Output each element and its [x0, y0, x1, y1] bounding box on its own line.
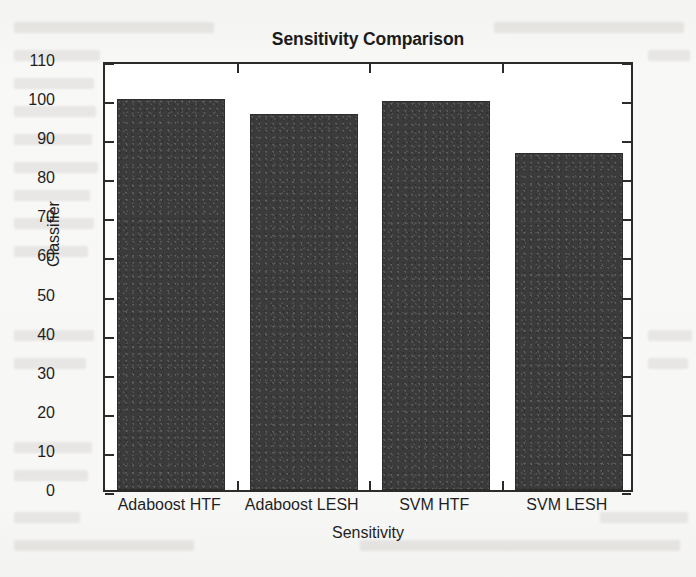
y-tick-label: 100: [0, 92, 55, 108]
x-tick-label: SVM HTF: [368, 496, 501, 514]
y-tick-label: 90: [0, 131, 55, 147]
y-axis-tick: [105, 180, 114, 182]
y-axis-tick: [105, 63, 114, 65]
y-tick-label: 60: [0, 248, 55, 264]
y-axis-tick: [105, 298, 114, 300]
y-axis-tick: [622, 102, 631, 104]
y-axis-tick: [105, 219, 114, 221]
x-axis-tick: [369, 64, 371, 73]
y-axis-tick: [105, 141, 114, 143]
y-axis-tick: [105, 415, 114, 417]
bar: [250, 114, 358, 490]
y-axis-tick: [622, 493, 631, 495]
x-axis-tick: [502, 64, 504, 73]
x-axis-tick: [237, 64, 239, 73]
y-axis-tick: [105, 258, 114, 260]
y-tick-label: 70: [0, 209, 55, 225]
y-axis-tick: [622, 298, 631, 300]
y-tick-label: 20: [0, 405, 55, 421]
y-axis-tick: [622, 141, 631, 143]
y-tick-label: 50: [0, 288, 55, 304]
x-axis-tick: [502, 481, 504, 490]
x-tick-label: Adaboost HTF: [103, 496, 236, 514]
plot-area: [103, 62, 633, 492]
bar: [117, 99, 225, 490]
y-tick-label: 0: [0, 483, 55, 499]
y-axis-tick: [622, 415, 631, 417]
y-axis-tick: [622, 180, 631, 182]
bar: [382, 101, 490, 490]
y-axis-tick: [105, 337, 114, 339]
y-axis-tick: [105, 493, 114, 495]
x-axis-tick: [369, 481, 371, 490]
y-axis-tick: [622, 219, 631, 221]
x-axis-label: Sensitivity: [103, 524, 633, 542]
y-axis-tick: [622, 454, 631, 456]
y-tick-label: 80: [0, 170, 55, 186]
y-axis-tick: [622, 376, 631, 378]
y-tick-label: 30: [0, 366, 55, 382]
y-tick-label: 10: [0, 444, 55, 460]
y-axis-tick: [105, 376, 114, 378]
y-tick-label: 40: [0, 327, 55, 343]
bar: [515, 153, 623, 490]
x-axis-tick: [237, 481, 239, 490]
sensitivity-comparison-bar-chart: Sensitivity Comparison Classifier 010203…: [0, 0, 696, 577]
y-axis-tick: [622, 63, 631, 65]
y-axis-tick: [105, 102, 114, 104]
y-axis-label: Classifier: [45, 174, 63, 294]
y-axis-tick: [622, 337, 631, 339]
y-tick-label: 110: [0, 53, 55, 69]
x-tick-label: Adaboost LESH: [236, 496, 369, 514]
y-axis-tick: [105, 454, 114, 456]
chart-title: Sensitivity Comparison: [103, 29, 633, 50]
y-axis-tick: [622, 258, 631, 260]
x-tick-label: SVM LESH: [501, 496, 634, 514]
